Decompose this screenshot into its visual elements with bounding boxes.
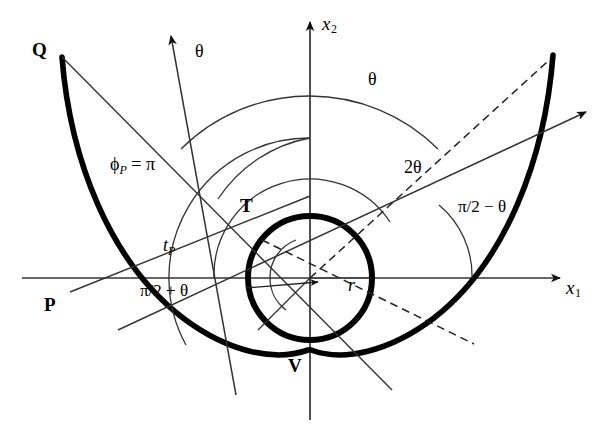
axis-label-x2-base: x bbox=[322, 13, 330, 34]
theta-arc-right bbox=[310, 96, 438, 149]
axis-label-x1-sub: 1 bbox=[575, 286, 581, 300]
dashed-line-upper-right bbox=[310, 62, 547, 278]
radius-label-r: r bbox=[348, 276, 355, 294]
diagram-canvas bbox=[0, 0, 616, 433]
phi-subscript: P bbox=[119, 163, 126, 177]
angle-label-phi-p: ϕP = π bbox=[110, 155, 155, 176]
ray-upper-left-arrow bbox=[171, 36, 236, 395]
t-subscript: P bbox=[168, 244, 175, 258]
point-label-v: V bbox=[288, 356, 302, 375]
angle-label-pi-half-plus-theta: π/2 + θ bbox=[140, 282, 188, 299]
pi-half-plus-theta-arc bbox=[270, 240, 296, 310]
angle-label-pi-half-minus-theta: π/2 − θ bbox=[458, 198, 506, 215]
point-label-t: T bbox=[240, 196, 253, 215]
theta-arc-mid-left bbox=[218, 138, 310, 199]
axis-label-x2: x2 bbox=[322, 14, 337, 35]
point-label-p: P bbox=[44, 295, 56, 314]
ray-upper-right-arrow bbox=[118, 112, 586, 330]
angle-label-two-theta: 2θ bbox=[404, 158, 422, 176]
axis-label-x1-base: x bbox=[566, 277, 574, 298]
phi-p-arc bbox=[169, 138, 310, 345]
point-label-q: Q bbox=[32, 40, 47, 59]
angle-label-theta-upper-left: θ bbox=[195, 42, 204, 60]
angle-label-t-p: tP bbox=[163, 236, 175, 257]
theta-arc-left bbox=[181, 96, 310, 149]
angle-label-theta-upper-right: θ bbox=[368, 70, 377, 88]
geometry-figure: Q P T V x2 x1 θ θ 2θ ϕP = π tP π/2 + θ π… bbox=[0, 0, 616, 433]
phi-value: = π bbox=[127, 154, 155, 174]
axis-label-x1: x1 bbox=[566, 278, 581, 299]
axis-label-x2-sub: 2 bbox=[331, 22, 337, 36]
cycloid-left-arch bbox=[62, 57, 308, 355]
pi-half-plus-theta-pointer bbox=[246, 282, 318, 288]
